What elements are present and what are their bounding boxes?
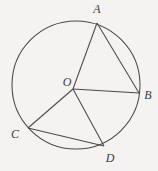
segment-OD <box>73 89 104 146</box>
point-label-O: O <box>63 76 72 88</box>
circle-outline <box>12 21 140 149</box>
point-label-C: C <box>11 128 19 140</box>
segment-AB <box>97 23 139 93</box>
point-label-D: D <box>106 152 115 164</box>
point-label-A: A <box>93 3 100 15</box>
segment-OA <box>73 23 97 89</box>
point-label-B: B <box>144 89 151 101</box>
geometry-canvas <box>0 0 158 171</box>
segment-OB <box>73 89 139 93</box>
geometry-figure: A B C D O <box>0 0 158 171</box>
segment-OC <box>28 89 73 128</box>
